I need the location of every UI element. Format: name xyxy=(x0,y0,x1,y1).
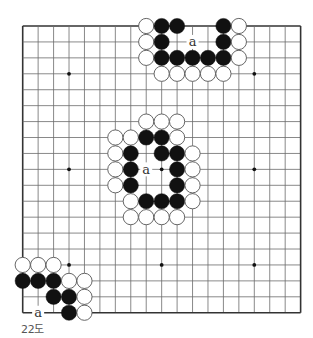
black-stone xyxy=(123,162,138,177)
point-label: a xyxy=(189,34,197,49)
white-stone xyxy=(231,18,246,33)
black-stone xyxy=(170,146,185,161)
black-stone xyxy=(185,50,200,65)
go-board: aaa xyxy=(0,0,313,338)
black-stone xyxy=(61,305,76,320)
black-stone xyxy=(216,50,231,65)
point-label: a xyxy=(34,305,42,320)
black-stone xyxy=(200,50,215,65)
point-label: a xyxy=(142,162,150,177)
hoshi-point xyxy=(252,167,256,171)
black-stone xyxy=(154,130,169,145)
white-stone xyxy=(77,305,92,320)
hoshi-point xyxy=(252,72,256,76)
black-stone xyxy=(15,273,30,288)
black-stone xyxy=(31,273,46,288)
white-stone xyxy=(231,50,246,65)
white-stone xyxy=(139,18,154,33)
white-stone xyxy=(185,66,200,81)
white-stone xyxy=(108,146,123,161)
black-stone xyxy=(170,50,185,65)
white-stone xyxy=(170,210,185,225)
white-stone xyxy=(15,257,30,272)
hoshi-point xyxy=(67,263,71,267)
white-stone xyxy=(231,34,246,49)
black-stone xyxy=(123,178,138,193)
white-stone xyxy=(61,273,76,288)
black-stone xyxy=(216,18,231,33)
black-stone xyxy=(123,146,138,161)
white-stone xyxy=(200,66,215,81)
white-stone xyxy=(185,194,200,209)
white-stone xyxy=(46,257,61,272)
white-stone xyxy=(123,210,138,225)
black-stone xyxy=(216,34,231,49)
hoshi-point xyxy=(160,167,164,171)
white-stone xyxy=(108,178,123,193)
white-stone xyxy=(77,273,92,288)
white-stone xyxy=(170,114,185,129)
black-stone xyxy=(154,194,169,209)
black-stone xyxy=(170,162,185,177)
white-stone xyxy=(154,114,169,129)
white-stone xyxy=(139,34,154,49)
black-stone xyxy=(46,289,61,304)
white-stone xyxy=(123,130,138,145)
hoshi-point xyxy=(67,167,71,171)
black-stone xyxy=(170,178,185,193)
hoshi-point xyxy=(160,263,164,267)
black-stone xyxy=(154,146,169,161)
white-stone xyxy=(154,210,169,225)
white-stone xyxy=(216,66,231,81)
white-stone xyxy=(139,50,154,65)
white-stone xyxy=(170,130,185,145)
black-stone xyxy=(46,273,61,288)
diagram-caption: 22도 xyxy=(21,320,44,336)
white-stone xyxy=(77,289,92,304)
black-stone xyxy=(170,18,185,33)
black-stone xyxy=(154,50,169,65)
hoshi-point xyxy=(252,263,256,267)
black-stone xyxy=(154,34,169,49)
white-stone xyxy=(185,178,200,193)
black-stone xyxy=(61,289,76,304)
white-stone xyxy=(139,114,154,129)
black-stone xyxy=(154,18,169,33)
black-stone xyxy=(170,194,185,209)
white-stone xyxy=(123,194,138,209)
white-stone xyxy=(108,162,123,177)
white-stone xyxy=(31,257,46,272)
white-stone xyxy=(139,210,154,225)
white-stone xyxy=(154,66,169,81)
white-stone xyxy=(185,162,200,177)
hoshi-point xyxy=(67,72,71,76)
black-stone xyxy=(139,130,154,145)
white-stone xyxy=(108,130,123,145)
black-stone xyxy=(139,194,154,209)
white-stone xyxy=(185,146,200,161)
white-stone xyxy=(170,66,185,81)
